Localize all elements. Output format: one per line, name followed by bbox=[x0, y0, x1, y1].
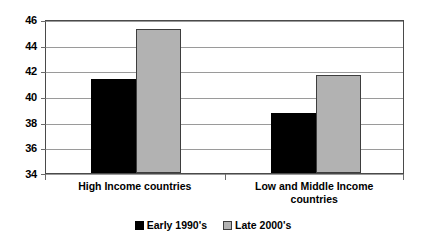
chart-legend: Early 1990's Late 2000's bbox=[0, 219, 426, 231]
legend-entry-late-2000s[interactable]: Late 2000's bbox=[223, 219, 291, 231]
bar-group-low-middle-income bbox=[226, 21, 406, 173]
bar-late-2000s-low-middle-income[interactable] bbox=[316, 75, 361, 173]
legend-label: Late 2000's bbox=[235, 219, 291, 231]
bar-chart: 46 44 42 40 38 36 34 bbox=[0, 0, 426, 238]
legend-label: Early 1990's bbox=[147, 219, 207, 231]
x-axis-category-line: Low and Middle Income bbox=[225, 180, 405, 193]
x-axis-category-label-low-middle-income: Low and Middle Income countries bbox=[225, 180, 405, 206]
x-axis-category-line: High Income countries bbox=[45, 180, 225, 193]
bar-group-high-income bbox=[46, 21, 226, 173]
plot-area bbox=[45, 20, 404, 174]
legend-swatch-icon bbox=[223, 221, 232, 230]
bar-early-1990s-high-income[interactable] bbox=[91, 79, 136, 173]
legend-swatch-icon bbox=[135, 221, 144, 230]
y-axis-tick-label: 40 bbox=[25, 91, 37, 103]
x-axis-category-line: countries bbox=[225, 193, 405, 206]
y-axis-tick-label: 36 bbox=[25, 142, 37, 154]
y-axis-tick-label: 44 bbox=[25, 40, 37, 52]
y-axis-tick-label: 38 bbox=[25, 117, 37, 129]
y-axis-tick-label: 46 bbox=[25, 14, 37, 26]
bar-early-1990s-low-middle-income[interactable] bbox=[271, 113, 316, 173]
y-axis-tick-label: 34 bbox=[25, 168, 37, 180]
y-axis-labels: 46 44 42 40 38 36 34 bbox=[0, 0, 42, 176]
bar-late-2000s-high-income[interactable] bbox=[136, 29, 181, 173]
legend-entry-early-1990s[interactable]: Early 1990's bbox=[135, 219, 207, 231]
x-axis-labels: High Income countries Low and Middle Inc… bbox=[45, 180, 404, 214]
bars-layer bbox=[46, 21, 403, 173]
x-axis-category-label-high-income: High Income countries bbox=[45, 180, 225, 193]
y-axis-tick-label: 42 bbox=[25, 65, 37, 77]
